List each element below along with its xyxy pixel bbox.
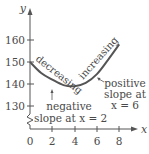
arrow-up-icon: [51, 89, 54, 93]
y-tick-label: 150: [5, 56, 25, 68]
x-tick-label: 4: [72, 135, 79, 147]
x-axis-label: x: [141, 123, 148, 136]
negative-annotation-line1: negative: [46, 100, 92, 112]
negative-annotation-line2: slope at x = 2: [34, 112, 107, 124]
axis-break-icon: [27, 114, 33, 129]
x-tick-label: 0: [27, 135, 34, 147]
increasing-label: increasing: [76, 34, 120, 81]
y-tick-label: 160: [5, 34, 25, 46]
chart: y x 160 150 140 130 0 2 4 6 8 decreasing…: [0, 0, 149, 154]
x-tick-label: 2: [49, 135, 56, 147]
x-axis-arrow-icon: [131, 127, 138, 132]
x-tick-label: 8: [116, 135, 123, 147]
x-tick-label: 6: [94, 135, 101, 147]
y-tick-label: 140: [5, 78, 25, 90]
y-tick-label: 130: [5, 100, 25, 112]
y-axis-label: y: [19, 2, 27, 15]
y-axis-arrow-icon: [28, 8, 33, 15]
positive-annotation-line3: x = 6: [111, 99, 139, 111]
